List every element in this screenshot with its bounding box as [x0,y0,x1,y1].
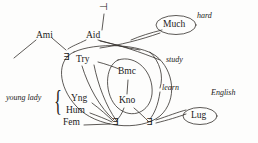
diagram-canvas: ⊣ Ami Aid Try Bmc Kno Yng Hum Fem Much L… [0,0,258,143]
group-label-young-lady: young lady [6,94,41,102]
quantifier-fem[interactable]: ∃ [112,117,118,127]
node-yng[interactable]: Yng [71,94,87,104]
node-kno[interactable]: Kno [119,96,135,106]
node-hum[interactable]: Hum [66,106,85,116]
group-brace-icon: { [54,85,62,115]
edge-fem-quant [84,124,110,125]
edge-aid-mid [98,40,140,50]
quantifier-try[interactable]: ∃ [63,52,69,62]
edge-quant-lug-a [156,110,186,120]
edge-yng-quant [92,103,113,121]
node-bmc[interactable]: Bmc [118,67,136,77]
edge-label-english: English [211,89,235,97]
quantifier-kno[interactable]: ∃ [146,117,152,127]
edge-try-bmc [98,62,119,69]
node-fem[interactable]: Fem [63,118,80,128]
edge-turnstile-aid [102,14,104,30]
edge-try-quantfem2 [94,65,116,120]
edge-aid-right [100,41,160,60]
edge-label-hard: hard [197,12,212,20]
edge-aid-try [68,40,86,49]
edge-label-study: study [166,56,183,64]
node-ami[interactable]: Ami [36,31,53,41]
edge-much-aid [131,30,162,40]
node-aid[interactable]: Aid [86,31,100,41]
turnstile-icon: ⊣ [99,2,108,12]
edge-bmc-kno [127,80,128,94]
edge-label-learn: learn [162,84,179,92]
node-try[interactable]: Try [76,55,89,65]
node-much[interactable]: Much [163,20,185,30]
node-lug[interactable]: Lug [191,111,206,121]
edge-ami-left [14,40,36,58]
edge-ami-try [52,38,66,50]
